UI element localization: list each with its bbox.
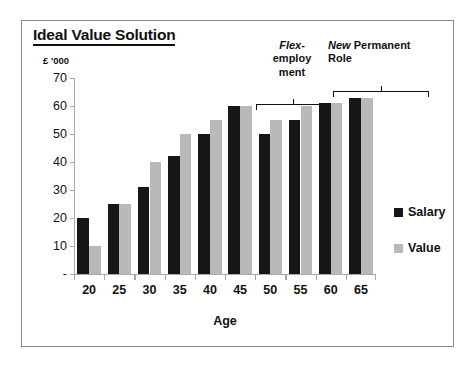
y-axis-tick-label: 20 [53,211,67,225]
x-axis-tick [134,275,135,280]
bar-value-25 [119,204,131,274]
legend-item-salary[interactable]: Salary [394,205,446,219]
bar-salary-60 [319,103,331,274]
y-axis-tick [70,78,75,79]
y-axis-unit-label: £ '000 [43,55,69,66]
bar-salary-35 [168,156,180,274]
x-axis-tick-label: 55 [294,283,308,297]
bar-value-45 [240,106,252,274]
legend-swatch-icon [394,244,403,253]
y-axis-tick-label: 40 [53,155,67,169]
x-axis-tick-label: 40 [203,283,217,297]
x-axis-tick-label: 60 [324,283,338,297]
x-axis-tick-label: 20 [82,283,96,297]
bar-value-35 [180,134,192,274]
x-axis-title: Age [74,314,376,328]
y-axis-tick [70,246,75,247]
x-axis-tick [225,275,226,280]
annotation-flex-employment: Flex- employ ment [256,39,328,79]
annotation-flex-line3: ment [279,66,305,78]
x-axis-tick [74,275,75,280]
chart-frame: Ideal Value Solution £ '000 Flex- employ… [21,20,454,347]
annotation-new-line2: Role [328,52,352,64]
bar-salary-55 [289,120,301,274]
chart-legend: SalaryValue [394,205,446,277]
bar-value-30 [150,162,162,274]
x-axis-tick [346,275,347,280]
x-axis-tick-label: 50 [263,283,277,297]
x-axis-tick-label: 65 [354,283,368,297]
bar-value-55 [301,106,313,274]
bar-value-60 [331,103,343,274]
bar-value-65 [361,98,373,274]
x-axis-tick [195,275,196,280]
legend-label: Salary [408,205,446,219]
plot-area: -10203040506070 20253035404550556065 [74,78,376,275]
annotation-flex-line1: Flex- [279,39,305,51]
bar-value-50 [270,120,282,274]
legend-label: Value [408,241,441,255]
bracket-right-end [428,91,429,97]
y-axis-tick [70,106,75,107]
annotation-flex-line2: employ [273,52,312,64]
bar-salary-25 [108,204,120,274]
x-axis-tick-label: 25 [112,283,126,297]
y-axis-tick-label: 30 [53,183,67,197]
y-axis-tick-label: 60 [53,99,67,113]
x-axis-tick-label: 30 [143,283,157,297]
bar-salary-20 [77,218,89,274]
annotation-new-rest: Permanent [351,39,411,51]
y-axis-tick-label: 50 [53,127,67,141]
chart-title: Ideal Value Solution [33,27,175,46]
y-axis-tick [70,134,75,135]
legend-item-value[interactable]: Value [394,241,446,255]
bar-salary-45 [228,106,240,274]
bar-salary-40 [198,134,210,274]
x-axis-tick-label: 35 [173,283,187,297]
x-axis-tick [316,275,317,280]
y-axis-tick [70,190,75,191]
x-axis-tick [165,275,166,280]
bar-salary-65 [349,98,361,274]
x-axis-tick [285,275,286,280]
y-axis-tick-label: 10 [53,239,67,253]
x-axis-tick-label: 45 [233,283,247,297]
y-axis-tick [70,218,75,219]
bar-salary-50 [259,134,271,274]
y-axis-tick-label: 70 [53,71,67,85]
bar-value-40 [210,120,222,274]
bar-salary-30 [138,187,150,274]
annotation-new-italic: New [328,39,351,51]
bar-value-20 [89,246,101,274]
legend-swatch-icon [394,208,403,217]
y-axis-tick [70,162,75,163]
x-axis-tick [255,275,256,280]
x-axis-tick [375,275,376,280]
y-axis-tick-label: - [63,267,67,281]
annotation-new-permanent-role: New Permanent Role [328,39,434,66]
x-axis-tick [104,275,105,280]
